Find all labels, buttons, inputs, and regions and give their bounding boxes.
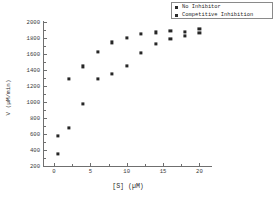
y-axis-title: V (µM/min): [5, 68, 12, 128]
data-point: [67, 126, 70, 129]
data-point: [154, 31, 157, 34]
data-point: [96, 50, 99, 53]
data-point: [56, 152, 59, 155]
data-point: [125, 64, 128, 67]
data-point: [198, 28, 201, 31]
x-axis-title: [S] (µM): [112, 183, 144, 190]
chart-figure: No Inhibitor Competitive Inhibition 0510…: [0, 0, 275, 200]
data-point: [183, 30, 186, 33]
data-point: [154, 42, 157, 45]
data-point: [169, 29, 172, 32]
data-point: [140, 51, 143, 54]
data-point: [81, 102, 84, 105]
data-point: [81, 65, 84, 68]
data-point: [183, 34, 186, 37]
data-point: [96, 78, 99, 81]
data-point: [56, 134, 59, 137]
data-point: [169, 37, 172, 40]
data-point: [198, 32, 201, 35]
data-point: [67, 77, 70, 80]
data-point: [125, 36, 128, 39]
data-point: [111, 72, 114, 75]
plot-area: [0, 0, 275, 200]
data-point: [140, 32, 143, 35]
data-point: [111, 41, 114, 44]
